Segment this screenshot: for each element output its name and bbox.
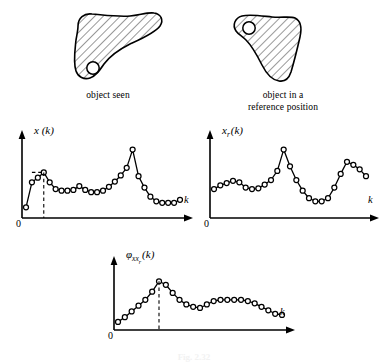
chart-signature-seen-svg bbox=[8, 126, 200, 234]
data-point-marker bbox=[351, 162, 356, 167]
chart-cross-correlation-ylabel: φxxr(k) bbox=[126, 248, 154, 265]
data-point-marker bbox=[243, 185, 248, 190]
chart-signature-reference: 0 xr(k) k bbox=[196, 126, 386, 234]
data-point-marker bbox=[136, 303, 141, 308]
data-point-marker bbox=[184, 302, 189, 307]
data-point-marker bbox=[307, 196, 312, 201]
ylabel-subscript2: r bbox=[139, 259, 141, 265]
data-point-marker bbox=[294, 178, 299, 183]
data-point-marker bbox=[122, 315, 127, 320]
data-point-marker bbox=[232, 297, 237, 302]
object-seen-caption: object seen bbox=[48, 90, 168, 102]
data-point-marker bbox=[124, 165, 129, 170]
chart-signature-reference-origin: 0 bbox=[204, 218, 209, 229]
data-point-marker bbox=[338, 171, 343, 176]
data-point-marker bbox=[118, 173, 123, 178]
data-series bbox=[116, 279, 285, 325]
data-point-marker bbox=[59, 188, 64, 193]
data-point-marker bbox=[191, 304, 196, 309]
x-axis bbox=[210, 215, 379, 222]
y-axis-arrow bbox=[207, 130, 214, 139]
data-point-marker bbox=[65, 188, 70, 193]
data-point-marker bbox=[136, 174, 141, 179]
chart-signature-reference-svg bbox=[196, 126, 386, 234]
chart-signature-reference-ylabel: xr(k) bbox=[222, 124, 243, 139]
object-reference-caption-line2: reference position bbox=[218, 102, 348, 114]
data-point-marker bbox=[198, 305, 203, 310]
data-point-marker bbox=[259, 304, 264, 309]
x-axis-arrow bbox=[370, 215, 379, 222]
data-point-marker bbox=[231, 178, 236, 183]
data-point-marker bbox=[178, 197, 183, 202]
x-axis-arrow bbox=[286, 327, 295, 334]
ylabel-tail: (k) bbox=[142, 248, 154, 260]
data-point-marker bbox=[172, 200, 177, 205]
data-point-marker bbox=[35, 175, 40, 180]
data-point-marker bbox=[47, 180, 52, 185]
data-point-marker bbox=[89, 190, 94, 195]
data-series bbox=[212, 147, 369, 204]
data-point-marker bbox=[71, 187, 76, 192]
data-point-marker bbox=[150, 289, 155, 294]
ylabel-subscript: xxr bbox=[132, 254, 141, 263]
figure-container: object seen object in a reference positi… bbox=[0, 0, 388, 363]
data-point-marker bbox=[266, 308, 271, 313]
object-seen-caption-text: object seen bbox=[86, 90, 130, 100]
data-point-marker bbox=[300, 188, 305, 193]
chart-cross-correlation-origin: 0 bbox=[108, 330, 113, 341]
chart-signature-reference-xlabel: k bbox=[368, 194, 373, 205]
data-point-marker bbox=[237, 180, 242, 185]
data-point-marker bbox=[160, 200, 165, 205]
data-point-marker bbox=[262, 182, 267, 187]
y-axis bbox=[111, 256, 118, 330]
data-point-marker bbox=[245, 299, 250, 304]
data-point-marker bbox=[319, 199, 324, 204]
data-point-marker bbox=[163, 282, 168, 287]
object-reference-hole bbox=[243, 22, 255, 34]
data-point-marker bbox=[166, 200, 171, 205]
x-axis bbox=[22, 215, 193, 222]
data-point-marker bbox=[313, 199, 318, 204]
data-point-marker bbox=[143, 297, 148, 302]
data-point-marker bbox=[326, 196, 331, 201]
object-reference-shape bbox=[234, 15, 301, 81]
data-point-marker bbox=[212, 187, 217, 192]
data-point-marker bbox=[29, 180, 34, 185]
chart-cross-correlation: 0 φxxr(k) k bbox=[100, 248, 305, 350]
object-shapes-svg bbox=[0, 0, 388, 92]
data-point-marker bbox=[24, 205, 29, 210]
data-series bbox=[24, 147, 183, 210]
series-line bbox=[118, 281, 282, 322]
data-point-marker bbox=[252, 301, 257, 306]
data-point-marker bbox=[177, 297, 182, 302]
chart-cross-correlation-xlabel: k bbox=[280, 306, 285, 317]
data-point-marker bbox=[275, 168, 280, 173]
data-point-marker bbox=[77, 184, 82, 189]
data-point-marker bbox=[154, 199, 159, 204]
data-point-marker bbox=[269, 178, 274, 183]
data-point-marker bbox=[224, 181, 229, 186]
y-axis-arrow bbox=[19, 130, 26, 139]
data-point-marker bbox=[218, 297, 223, 302]
x-axis bbox=[114, 327, 295, 334]
data-point-marker bbox=[116, 319, 121, 324]
data-point-marker bbox=[129, 309, 134, 314]
data-point-marker bbox=[95, 190, 100, 195]
chart-signature-seen-ylabel: x (k) bbox=[34, 124, 54, 136]
data-point-marker bbox=[250, 187, 255, 192]
data-point-marker bbox=[225, 297, 230, 302]
data-point-marker bbox=[148, 194, 153, 199]
data-point-marker bbox=[273, 311, 278, 316]
data-point-marker bbox=[142, 185, 147, 190]
data-point-marker bbox=[106, 184, 111, 189]
data-point-marker bbox=[364, 174, 369, 179]
x-axis-arrow bbox=[184, 215, 193, 222]
data-point-marker bbox=[256, 186, 261, 191]
data-point-marker bbox=[288, 164, 293, 169]
data-point-marker bbox=[101, 188, 106, 193]
object-reference-caption: object in a reference position bbox=[218, 90, 348, 113]
data-point-marker bbox=[218, 183, 223, 188]
data-point-marker bbox=[357, 167, 362, 172]
ylabel-tail: (k) bbox=[231, 124, 243, 136]
data-point-marker bbox=[83, 187, 88, 192]
